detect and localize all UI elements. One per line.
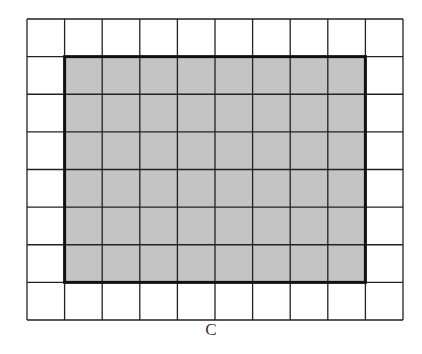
grid-figure — [0, 0, 422, 354]
figure-label: C — [0, 320, 422, 340]
